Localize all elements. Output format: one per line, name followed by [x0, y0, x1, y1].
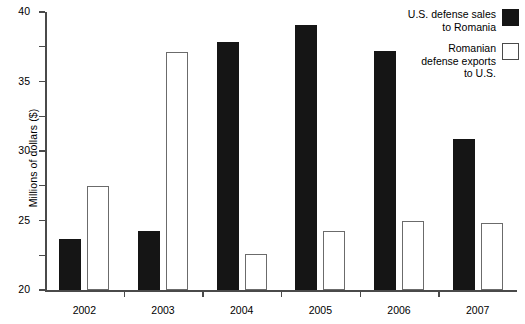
x-axis-label-2005: 2005: [309, 304, 332, 316]
legend: U.S. defense sales to Romania Romanian d…: [379, 8, 519, 89]
bar-2005-series-1: [295, 25, 317, 290]
legend-swatch-black-icon: [502, 9, 519, 26]
bar-2004-series-2: [245, 254, 267, 290]
bar-2002-series-2: [87, 186, 109, 290]
bar-2004-series-1: [217, 42, 239, 290]
x-axis-separator-tick: [124, 290, 125, 297]
legend-item-series-1: U.S. defense sales to Romania: [379, 8, 519, 33]
y-axis-tick: 25: [39, 116, 45, 117]
legend-label-series-1: U.S. defense sales to Romania: [408, 8, 496, 33]
y-axis-tick-label: 40: [18, 5, 30, 17]
bar-2007-series-2: [481, 223, 503, 290]
y-axis-tick: 5: [39, 255, 45, 256]
y-axis-tick: 0: [39, 289, 45, 290]
y-axis-tick: 35: [39, 46, 45, 47]
x-axis-separator-tick: [360, 290, 361, 297]
x-axis-label-2007: 2007: [466, 304, 489, 316]
x-axis-label-2002: 2002: [73, 304, 96, 316]
legend-label-line: defense exports: [421, 55, 496, 68]
y-axis-line: [45, 12, 47, 290]
bar-2007-series-1: [453, 139, 475, 291]
plot-area: 0510152025303540 20022003200420052006200…: [45, 12, 383, 290]
bar-2002-series-1: [59, 239, 81, 290]
bar-2006-series-2: [402, 221, 424, 290]
y-axis-tick: 30: [39, 81, 45, 82]
x-axis-separator-tick: [438, 290, 439, 297]
legend-item-series-2: Romanian defense exports to U.S.: [379, 42, 519, 80]
x-axis-label-2006: 2006: [387, 304, 410, 316]
x-axis-label-2004: 2004: [230, 304, 253, 316]
x-axis-label-2003: 2003: [151, 304, 174, 316]
legend-swatch-white-icon: [502, 43, 519, 60]
bar-2005-series-2: [323, 231, 345, 290]
legend-label-series-2: Romanian defense exports to U.S.: [421, 42, 496, 80]
legend-label-line: to Romania: [408, 21, 496, 34]
legend-label-line: to U.S.: [421, 67, 496, 80]
y-axis-tick-label: 30: [18, 144, 30, 156]
x-axis-separator-tick: [281, 290, 282, 297]
y-axis-tick-label: 25: [18, 214, 30, 226]
y-axis-tick-label: 35: [18, 75, 30, 87]
legend-label-line: U.S. defense sales: [408, 8, 496, 21]
bar-2003-series-2: [166, 52, 188, 290]
y-axis-tick: 40: [39, 11, 45, 12]
y-axis-tick: 20: [39, 150, 45, 151]
x-axis-separator-tick: [202, 290, 203, 297]
bar-2003-series-1: [138, 231, 160, 290]
y-axis-tick-label: 20: [18, 283, 30, 295]
legend-label-line: Romanian: [421, 42, 496, 55]
y-axis-tick: 15: [39, 185, 45, 186]
y-axis-tick: 10: [39, 220, 45, 221]
bar-chart: Millions of dollars ($) 0510152025303540…: [0, 0, 525, 324]
